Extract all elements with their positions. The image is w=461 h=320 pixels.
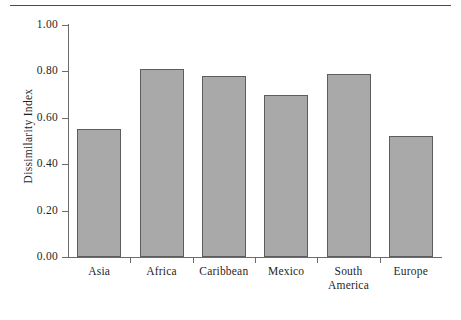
x-tick-label-line: Africa [130,265,192,279]
x-tick-mark [130,257,131,263]
x-tick-mark [380,257,381,263]
bar [327,74,371,257]
x-tick-label-line: Asia [68,265,130,279]
bar [140,69,184,257]
y-tick-label-wrap: 0.00 [6,251,58,263]
x-tick-label-line: South [317,265,379,279]
bar [389,136,433,257]
y-tick-mark [62,211,68,212]
x-tick-label: Africa [130,265,192,279]
y-tick-label: 0.60 [12,112,58,124]
x-tick-label: Caribbean [193,265,255,279]
x-tick-mark [255,257,256,263]
figure-top-rule [10,5,451,6]
bar [77,129,121,257]
y-tick-label-wrap: 0.40 [6,158,58,170]
y-tick-label: 0.20 [12,205,58,217]
y-tick-label: 0.80 [12,65,58,77]
y-tick-mark [62,257,68,258]
bar-chart-figure: Dissimilarity Index 0.000.200.400.600.80… [0,0,461,320]
y-tick-label: 1.00 [12,19,58,31]
y-tick-label: 0.40 [12,158,58,170]
x-tick-label-line: Mexico [255,265,317,279]
x-tick-label-line: Caribbean [193,265,255,279]
x-tick-label: Mexico [255,265,317,279]
x-tick-label-line: Europe [380,265,442,279]
y-tick-mark [62,71,68,72]
y-axis-line [68,24,69,258]
x-tick-mark [317,257,318,263]
y-tick-label: 0.00 [12,251,58,263]
x-tick-label: Europe [380,265,442,279]
x-tick-mark [193,257,194,263]
x-tick-label: SouthAmerica [317,265,379,292]
y-tick-label-wrap: 1.00 [6,19,58,31]
x-tick-label: Asia [68,265,130,279]
y-tick-label-wrap: 0.20 [6,205,58,217]
y-tick-label-wrap: 0.60 [6,112,58,124]
bar [264,95,308,257]
y-tick-mark [62,164,68,165]
bar [202,76,246,257]
y-tick-label-wrap: 0.80 [6,65,58,77]
x-tick-label-line: America [317,279,379,293]
y-tick-mark [62,118,68,119]
y-tick-mark [62,25,68,26]
